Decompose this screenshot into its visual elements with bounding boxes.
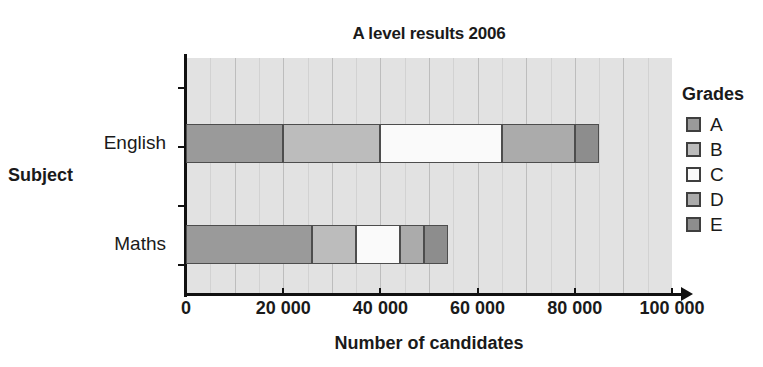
legend-swatch-icon-a [686,117,701,132]
legend-label: E [710,215,723,234]
legend-title: Grades [682,84,763,105]
bar-segment-maths-b [312,225,356,264]
bar-segment-english-d [502,124,575,163]
legend-item-b[interactable]: B [686,137,763,162]
legend-swatch-icon-c [686,167,701,182]
bar-segment-english-c [380,124,502,163]
x-axis-tick [282,288,284,294]
bar-segment-maths-c [356,225,400,264]
gridline-major [623,58,624,293]
legend-swatch-icon-e [686,217,701,232]
bar-segment-maths-e [424,225,448,264]
y-axis-tick [178,205,185,207]
x-tick-label: 20 000 [256,298,311,319]
legend-label: B [710,140,723,159]
x-tick-label: 60 000 [450,298,505,319]
bar-segment-english-a [186,124,283,163]
bar-segment-maths-d [400,225,424,264]
gridline-major [526,58,527,293]
x-axis-tick [477,288,479,294]
gridline-major [478,58,479,293]
gridline-minor [502,58,503,293]
x-axis-tick [379,288,381,294]
chart-figure: A level results 2006 020 00040 00060 000… [0,0,763,367]
legend-label: C [710,165,724,184]
legend-label: D [710,190,724,209]
x-tick-label: 40 000 [353,298,408,319]
y-tick-label-maths: Maths [114,233,166,255]
gridline-minor [551,58,552,293]
x-tick-label: 100 000 [639,298,704,319]
bar-segment-maths-a [186,225,312,264]
x-axis-tick [574,288,576,294]
gridline-minor [599,58,600,293]
legend-item-a[interactable]: A [686,112,763,137]
y-tick-label-english: English [104,132,166,154]
x-axis-tick [185,288,187,294]
y-axis-tick [178,264,185,266]
gridline-minor [453,58,454,293]
chart-title: A level results 2006 [186,24,672,44]
legend-item-c[interactable]: C [686,162,763,187]
gridline-major [575,58,576,293]
bar-segment-english-b [283,124,380,163]
legend-item-e[interactable]: E [686,212,763,237]
bar-segment-english-e [575,124,599,163]
y-axis-tick [178,87,185,89]
y-axis-title: Subject [8,165,73,186]
y-axis-tick [178,146,185,148]
x-tick-label: 80 000 [547,298,602,319]
x-axis-title: Number of candidates [186,333,672,354]
x-axis-line [184,293,684,296]
legend-swatch-icon-d [686,192,701,207]
legend: Grades ABCDE [682,84,763,237]
x-tick-label: 0 [181,298,191,319]
legend-label: A [710,115,723,134]
legend-items: ABCDE [682,112,763,237]
legend-swatch-icon-b [686,142,701,157]
legend-item-d[interactable]: D [686,187,763,212]
gridline-minor [648,58,649,293]
x-axis-tick [671,288,673,294]
